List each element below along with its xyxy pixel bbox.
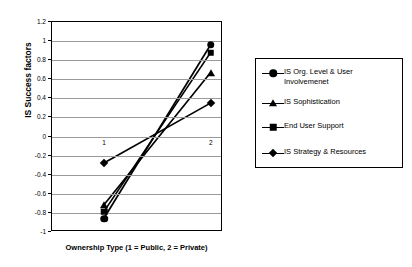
legend-marker-diamond-icon xyxy=(262,148,284,158)
data-point-marker xyxy=(100,215,108,223)
series-line xyxy=(104,103,210,162)
x-axis-tick-label: 1 xyxy=(94,139,114,146)
data-point-marker xyxy=(101,209,108,216)
y-axis-tick-mark xyxy=(48,231,51,232)
legend-item-label: End User Support xyxy=(284,121,344,131)
legend-marker-square-icon xyxy=(262,122,284,132)
y-axis-tick-label: -0.4 xyxy=(12,170,46,177)
y-axis-tick-mark xyxy=(48,40,51,41)
y-axis-tick-mark xyxy=(48,21,51,22)
legend-item[interactable]: IS Org. Level & User Involvemenet xyxy=(262,67,353,86)
y-axis-tick-mark xyxy=(48,97,51,98)
grid-line xyxy=(52,175,221,176)
data-point-marker xyxy=(208,49,215,56)
y-axis-tick-mark xyxy=(48,136,51,137)
data-point-marker xyxy=(207,69,215,76)
y-axis-tick-label: 0.2 xyxy=(12,113,46,120)
y-axis-tick-label: -0.2 xyxy=(12,151,46,158)
y-axis-tick-mark xyxy=(48,193,51,194)
x-axis-tick-label: 2 xyxy=(201,139,221,146)
legend-item[interactable]: IS Sophistication xyxy=(262,97,340,108)
grid-line xyxy=(52,79,221,80)
data-point-marker xyxy=(100,201,108,208)
chart-container: IS Success factors 1.210.80.60.40.20-0.2… xyxy=(0,0,412,267)
grid-line xyxy=(52,41,221,42)
series-line xyxy=(104,73,210,204)
y-axis-tick-label: 1.2 xyxy=(12,18,46,25)
grid-line xyxy=(52,156,221,157)
y-axis-tick-label: 0.4 xyxy=(12,94,46,101)
y-axis-tick-label: 0 xyxy=(12,132,46,139)
y-axis-tick-mark xyxy=(48,174,51,175)
chart-legend: IS Org. Level & User InvolvemenetIS Soph… xyxy=(255,58,403,168)
y-axis-tick-mark xyxy=(48,59,51,60)
grid-line xyxy=(52,194,221,195)
y-axis-tick-label: 1 xyxy=(12,37,46,44)
legend-item-label: IS Strategy & Resources xyxy=(284,147,366,157)
grid-line xyxy=(52,213,221,214)
y-axis-tick-label: -0.8 xyxy=(12,208,46,215)
x-axis-title: Ownership Type (1 = Public, 2 = Private) xyxy=(51,243,222,252)
plot-area xyxy=(51,21,222,231)
y-axis-tick-mark xyxy=(48,78,51,79)
grid-line xyxy=(52,117,221,118)
series-lines-layer xyxy=(52,22,221,230)
grid-line xyxy=(52,60,221,61)
y-axis-tick-label: 0.8 xyxy=(12,56,46,63)
y-axis-tick-label: -0.6 xyxy=(12,189,46,196)
grid-line xyxy=(52,98,221,99)
y-axis-tick-label: -1 xyxy=(12,228,46,235)
grid-line xyxy=(52,137,221,138)
legend-item[interactable]: IS Strategy & Resources xyxy=(262,147,366,158)
y-axis-tick-mark xyxy=(48,212,51,213)
legend-marker-circle-icon xyxy=(262,68,284,78)
y-axis-tick-mark xyxy=(48,155,51,156)
legend-item-label: IS Org. Level & User Involvemenet xyxy=(284,67,353,86)
data-point-marker xyxy=(207,41,215,49)
y-axis-tick-mark xyxy=(48,116,51,117)
legend-marker-triangle-icon xyxy=(262,98,284,108)
y-axis-tick-label: 0.6 xyxy=(12,75,46,82)
legend-item[interactable]: End User Support xyxy=(262,121,344,132)
legend-item-label: IS Sophistication xyxy=(284,97,340,107)
